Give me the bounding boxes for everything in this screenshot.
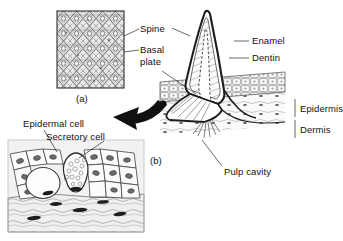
label-pulp-cavity: Pulp cavity <box>224 166 271 177</box>
label-basal-plate-line1: Basal <box>140 44 164 55</box>
label-secretory-cell: Secretory cell <box>46 131 105 142</box>
curved-arrow-icon <box>113 100 163 130</box>
label-dentin: Dentin <box>252 52 280 63</box>
label-dermis: Dermis <box>300 124 331 135</box>
label-enamel: Enamel <box>252 35 285 46</box>
label-spine: Spine <box>140 23 165 34</box>
label-basal-plate-line2: plate <box>140 56 161 67</box>
label-epidermis: Epidermis <box>300 103 343 114</box>
label-epidermal-cell: Epidermal cell <box>23 118 84 129</box>
